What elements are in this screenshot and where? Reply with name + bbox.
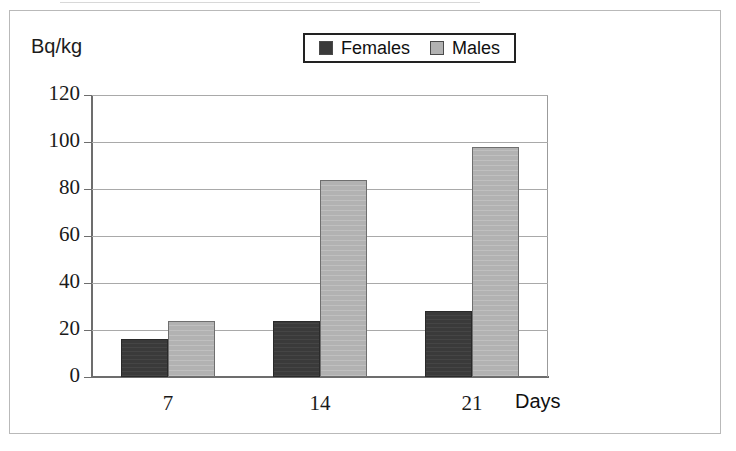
y-axis-tick-label: 0: [24, 363, 80, 388]
y-axis-tick: [84, 189, 92, 190]
square-swatch-icon: [319, 41, 333, 55]
y-axis-tick: [84, 95, 92, 96]
square-swatch-icon: [430, 41, 444, 55]
y-axis-tick-label: 60: [24, 222, 80, 247]
y-axis-tick-label: 100: [24, 128, 80, 153]
y-axis-tick-label: 40: [24, 269, 80, 294]
legend-label-females: Females: [341, 38, 410, 59]
y-axis-tick-label: 120: [24, 81, 80, 106]
bar-males-day-7: [168, 321, 215, 377]
x-axis-tick-label: 21: [442, 391, 502, 416]
y-axis-tick: [84, 377, 92, 378]
figure-frame: Bq/kg Females Males 120100806040200 7142…: [9, 10, 721, 434]
y-axis-tick-label: 20: [24, 316, 80, 341]
y-axis-tick: [84, 283, 92, 284]
bar-females-day-14: [273, 321, 320, 377]
gridline: [92, 95, 548, 96]
plot-area: [92, 95, 548, 377]
y-axis-tick-labels: 120100806040200: [18, 11, 80, 451]
x-axis-tick-label: 14: [290, 391, 350, 416]
y-axis-tick: [84, 330, 92, 331]
bar-males-day-21: [472, 147, 519, 377]
gridline: [92, 142, 548, 143]
scan-artifact-line: [60, 2, 480, 3]
y-axis-tick-label: 80: [24, 175, 80, 200]
legend-item-males: Males: [430, 38, 500, 59]
y-axis-tick: [84, 236, 92, 237]
y-axis-tick: [84, 142, 92, 143]
bar-males-day-14: [320, 180, 367, 377]
legend-label-males: Males: [452, 38, 500, 59]
chart-legend: Females Males: [303, 33, 516, 63]
bar-females-day-7: [121, 339, 168, 377]
bar-females-day-21: [425, 311, 472, 377]
x-axis-title: Days: [515, 390, 561, 413]
legend-item-females: Females: [319, 38, 410, 59]
x-axis-tick-label: 7: [138, 391, 198, 416]
